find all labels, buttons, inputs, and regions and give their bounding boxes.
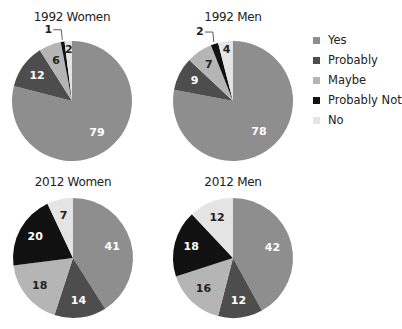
pie-svg: 411418207 <box>0 165 150 329</box>
slice-value-label: 12 <box>209 211 224 224</box>
slice-value-label: 9 <box>191 74 199 87</box>
legend-item-probably: Probably <box>313 50 402 70</box>
legend-label: Yes <box>328 33 347 47</box>
legend-label: Probably Not <box>328 93 402 107</box>
pie-chart-2012-men: 2012 Men 4212161812 <box>160 165 310 329</box>
slice-value-label: 6 <box>52 54 60 67</box>
slice-value-label: 78 <box>251 125 266 138</box>
pie-svg: 4212161812 <box>160 165 310 329</box>
slice-value-label: 18 <box>184 240 199 253</box>
legend-label: No <box>328 113 344 127</box>
legend-label: Probably <box>328 53 378 67</box>
pie-chart-1992-women: 1992 Women 7912612 <box>0 0 150 165</box>
slice-value-label: 4 <box>223 43 231 56</box>
legend-item-probably-not: Probably Not <box>313 90 402 110</box>
slice-value-label: 12 <box>29 69 44 82</box>
legend-swatch <box>313 97 320 104</box>
slice-value-label: 7 <box>60 209 68 222</box>
slice-value-label: 20 <box>27 230 43 243</box>
slice-value-label: 1 <box>44 23 52 36</box>
slice-value-label: 14 <box>71 294 87 307</box>
slice-value-label: 2 <box>65 43 73 56</box>
slice-value-label: 7 <box>205 58 213 71</box>
leader-line <box>205 32 214 42</box>
legend-swatch <box>313 117 320 124</box>
legend: Yes Probably Maybe Probably Not No <box>313 30 402 130</box>
pie-svg: 789724 <box>160 0 310 165</box>
slice-value-label: 79 <box>89 126 104 139</box>
legend-item-maybe: Maybe <box>313 70 402 90</box>
slice-value-label: 12 <box>231 294 246 307</box>
legend-swatch <box>313 37 320 44</box>
legend-item-yes: Yes <box>313 30 402 50</box>
pie-svg: 7912612 <box>0 0 150 165</box>
legend-swatch <box>313 57 320 64</box>
legend-label: Maybe <box>328 73 366 87</box>
slice-value-label: 42 <box>265 241 280 254</box>
pie-chart-1992-men: 1992 Men 789724 <box>160 0 310 165</box>
leader-line <box>53 30 62 40</box>
legend-swatch <box>313 77 320 84</box>
legend-item-no: No <box>313 110 402 130</box>
slice-value-label: 41 <box>105 240 120 253</box>
slice-value-label: 16 <box>196 282 212 295</box>
slice-value-label: 18 <box>32 279 47 292</box>
pie-chart-2012-women: 2012 Women 411418207 <box>0 165 150 329</box>
slice-value-label: 2 <box>196 25 204 38</box>
